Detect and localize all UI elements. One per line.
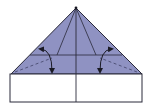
apex-point [75, 7, 78, 10]
origami-diagram [0, 0, 151, 112]
colored-triangle-flap [11, 8, 142, 74]
diagram-canvas [0, 0, 151, 112]
